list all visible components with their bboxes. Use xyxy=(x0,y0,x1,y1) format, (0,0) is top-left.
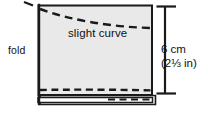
slight-curve-dash-tail xyxy=(24,2,33,6)
dimension-label: 6 cm (2⅓ in) xyxy=(161,42,197,70)
fabric-panel xyxy=(39,6,153,96)
slight-curve-label: slight curve xyxy=(68,28,127,40)
dimension-imperial-label: (2⅓ in) xyxy=(161,56,197,70)
dimension-metric-label: 6 cm xyxy=(161,42,197,56)
folded-fabric-diagram: slight curve fold 6 cm (2⅓ in) xyxy=(0,0,208,116)
fold-label: fold xyxy=(8,45,25,56)
